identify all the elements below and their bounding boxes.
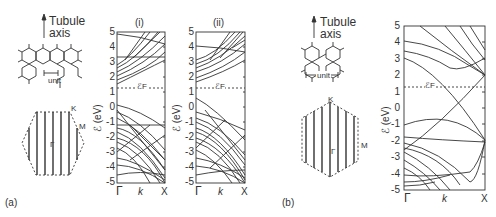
ytick: -4 [180, 162, 194, 172]
ytick: 5 [180, 27, 194, 37]
xtick-k-ii: k [218, 187, 223, 197]
ytick: -5 [386, 185, 400, 195]
ytick: -1 [180, 117, 194, 127]
ytick: -2 [101, 132, 115, 142]
ytick: 1 [180, 87, 194, 97]
ytick: -1 [101, 117, 115, 127]
subpanel-title-ii: (ii) [213, 18, 224, 28]
xtick-x-i: X [161, 187, 168, 197]
subpanel-title-i: (i) [135, 18, 144, 28]
tubule-label: Tubule [320, 17, 356, 27]
tubule-axis-label-a: Tubule axis [49, 16, 85, 38]
fermi-label-b: ℰF [425, 81, 435, 91]
xtick-x-ii: X [241, 187, 248, 197]
m-point-a: M [79, 122, 86, 132]
ytick: 0 [386, 103, 400, 113]
fermi-label-ii: ℰF [215, 82, 225, 92]
fermi-label-i: ℰF [137, 82, 147, 92]
ytick: 3 [101, 57, 115, 67]
tubule-axis-label-b: Tubule axis [320, 17, 356, 39]
xtick-k-i: k [138, 187, 143, 197]
plot-a-i [117, 32, 165, 183]
panel-label-a: (a) [5, 198, 17, 208]
ytick: 2 [386, 70, 400, 80]
k-point-a: K [71, 104, 76, 114]
m-point-b: M [361, 141, 368, 151]
unit-label-b: unit [316, 71, 331, 81]
axis-label: axis [49, 28, 85, 38]
ytick: -5 [180, 177, 194, 187]
brillouin-zone-b [302, 102, 358, 177]
xtick-k-b: k [442, 194, 447, 204]
xtick-gamma-b: Γ [404, 193, 411, 203]
xtick-gamma-ii: Γ [195, 186, 202, 196]
xtick-gamma-i: Γ [116, 186, 123, 196]
ytick: -3 [386, 152, 400, 162]
ytick: 4 [386, 37, 400, 47]
ytick: 0 [180, 102, 194, 112]
ytick: 2 [180, 72, 194, 82]
axis-label: axis [320, 29, 356, 39]
unit-label-a: unit [48, 76, 61, 86]
ytick: 4 [180, 42, 194, 52]
gamma-point-a: Γ [50, 140, 54, 150]
ytick: 1 [101, 87, 115, 97]
k-point-b: K [328, 95, 333, 105]
gamma-point-b: Γ [331, 147, 335, 157]
ytick: -3 [180, 147, 194, 157]
plot-a-ii [196, 32, 245, 183]
ytick: -2 [180, 132, 194, 142]
ytick: 3 [386, 54, 400, 64]
ytick: -2 [386, 136, 400, 146]
plot-b [404, 26, 485, 190]
ytick: 5 [386, 21, 400, 31]
ytick: -4 [101, 162, 115, 172]
ytick: -1 [386, 119, 400, 129]
ytick: 1 [386, 87, 400, 97]
ytick: -5 [101, 177, 115, 187]
ytick: -3 [101, 147, 115, 157]
ytick: 3 [180, 57, 194, 67]
ytick: 0 [101, 102, 115, 112]
ytick: 4 [101, 42, 115, 52]
ytick: 5 [101, 27, 115, 37]
ytick: 2 [101, 72, 115, 82]
panel-label-b: (b) [282, 198, 294, 208]
ytick: -4 [386, 169, 400, 179]
xtick-x-b: X [481, 194, 488, 204]
tubule-label: Tubule [49, 16, 85, 26]
